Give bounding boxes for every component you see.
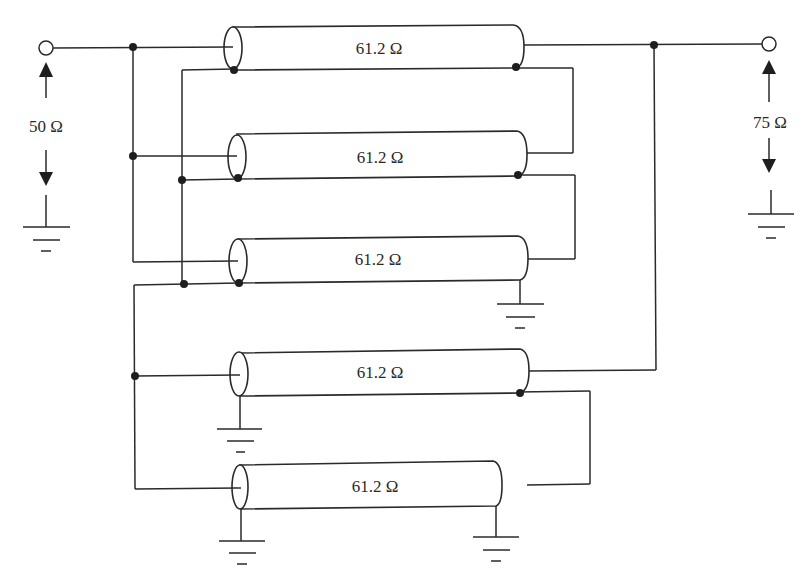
- ground-icon: [219, 509, 265, 564]
- output-port: 75 Ω: [524, 37, 794, 238]
- coax-line-2: 61.2 Ω: [228, 131, 527, 179]
- coax-line-3: 61.2 Ω: [229, 236, 544, 328]
- ground-icon: [473, 506, 519, 561]
- input-terminal-icon: [39, 41, 53, 55]
- junction-dot: [129, 43, 137, 51]
- coax-line-5: 61.2 Ω: [219, 461, 519, 564]
- line-1-impedance-label: 61.2 Ω: [356, 39, 403, 58]
- right-wiring: [516, 45, 656, 485]
- input-port: 50 Ω: [23, 41, 232, 251]
- ground-icon: [217, 396, 262, 452]
- junction-dot: [230, 66, 238, 74]
- input-bus: [133, 47, 239, 489]
- coax-line-1: 61.2 Ω: [224, 25, 524, 70]
- ground-icon: [748, 190, 794, 238]
- input-impedance-label: 50 Ω: [29, 117, 63, 136]
- junction-dot: [235, 279, 243, 287]
- line-4-impedance-label: 61.2 Ω: [357, 363, 404, 382]
- ground-icon: [497, 280, 544, 328]
- up-arrow-icon: [762, 60, 776, 74]
- junction-dot: [514, 171, 522, 179]
- ground-icon: [23, 195, 70, 251]
- up-arrow-icon: [39, 62, 53, 77]
- junction-dot: [650, 41, 658, 49]
- junction-dot: [129, 152, 137, 160]
- junction-dot: [516, 389, 524, 397]
- coax-line-4: 61.2 Ω: [217, 349, 529, 452]
- junction-dot: [131, 372, 139, 380]
- junction-dot: [180, 280, 188, 288]
- coax-transformer-diagram: 50 Ω 75 Ω: [0, 0, 811, 588]
- junction-dot: [234, 174, 242, 182]
- output-impedance-label: 75 Ω: [753, 113, 787, 132]
- output-terminal-icon: [762, 37, 776, 51]
- line-3-impedance-label: 61.2 Ω: [355, 250, 402, 269]
- junction-dot: [178, 176, 186, 184]
- down-arrow-icon: [39, 172, 53, 186]
- junction-dots: [129, 41, 658, 397]
- junction-dot: [512, 63, 520, 71]
- line-2-impedance-label: 61.2 Ω: [357, 148, 404, 167]
- down-arrow-icon: [762, 159, 776, 173]
- line-5-impedance-label: 61.2 Ω: [352, 477, 399, 496]
